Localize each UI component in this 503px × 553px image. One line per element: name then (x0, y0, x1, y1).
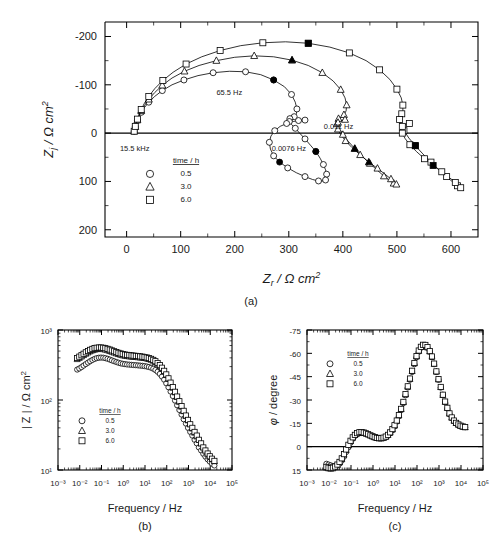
x-tick-label: 10⁻³ (50, 479, 66, 488)
data-marker-square (394, 418, 399, 423)
highlight-marker-square (430, 162, 436, 168)
x-tick-label: 300 (280, 243, 298, 255)
y-tick-label: -15 (289, 420, 301, 429)
data-marker-square (403, 391, 408, 396)
x-tick-label: 400 (334, 243, 352, 255)
data-marker-square (414, 354, 419, 359)
y-tick-label: -200 (75, 30, 97, 42)
y-tick-label: 200 (79, 224, 97, 236)
data-marker-circle (210, 70, 216, 76)
data-marker-square (160, 77, 166, 83)
x-tick-label: 10⁵ (226, 479, 238, 488)
data-marker-square (438, 384, 443, 389)
y-tick-label: -75 (289, 327, 301, 336)
x-tick-label: 10³ (183, 479, 195, 488)
data-marker-square (212, 458, 217, 463)
legend-title: time / h (173, 156, 199, 165)
y-axis-label: | Z | / Ω cm2 (19, 370, 32, 429)
y-tick-label: 0 (91, 127, 97, 139)
y-tick-label: -60 (289, 350, 301, 359)
highlight-marker-circle (271, 77, 277, 83)
x-tick-label: 10⁰ (117, 479, 129, 488)
x-tick-label: 100 (172, 243, 190, 255)
data-marker-square (260, 40, 266, 46)
y-tick-label: -100 (75, 79, 97, 91)
data-marker-square (396, 412, 401, 417)
legend-marker-circle (79, 418, 85, 424)
x-tick-label: 10⁴ (204, 479, 217, 488)
data-marker-circle (302, 117, 308, 123)
data-marker-square (463, 424, 468, 429)
data-marker-square (132, 123, 138, 129)
legend-label: 0.5 (180, 169, 192, 178)
data-marker-circle (302, 174, 308, 180)
y-axis-label: φ / degree (267, 375, 279, 426)
x-tick-label: 0 (124, 243, 130, 255)
nyquist-svg: 0100200300400500600-200-100010020015.5 k… (0, 0, 503, 320)
data-series-group (323, 342, 468, 471)
legend-marker-square (79, 438, 85, 444)
data-marker-square (421, 156, 427, 162)
legend-marker-square (146, 196, 153, 203)
data-marker-triangle (388, 175, 395, 181)
x-tick-label: 10⁻² (72, 479, 88, 488)
data-marker-square (399, 406, 404, 411)
data-marker-circle (181, 77, 187, 83)
data-marker-circle (271, 153, 277, 159)
data-marker-circle (289, 91, 295, 97)
bode-magnitude-panel: 10⁻³10⁻²10⁻¹10⁰10¹10²10³10⁴10⁵10¹10²10³t… (10, 318, 250, 553)
legend-title: time / h (99, 407, 121, 414)
x-tick-label: 10¹ (389, 479, 401, 488)
y-axis-label: Zj / Ω cm2 (40, 101, 58, 159)
data-marker-triangle (181, 68, 188, 74)
data-marker-triangle (319, 69, 326, 75)
legend-marker-circle (146, 170, 153, 177)
data-marker-circle (323, 177, 329, 183)
data-marker-square (138, 106, 144, 112)
legend-marker-triangle (327, 370, 334, 376)
data-marker-square (434, 369, 439, 374)
curve-3.0h (134, 56, 396, 185)
data-marker-square (443, 399, 448, 404)
x-tick-label: 10⁻³ (299, 479, 315, 488)
y-tick-label: 15 (292, 467, 301, 476)
data-marker-circle (320, 162, 326, 168)
x-tick-label: 10⁻¹ (94, 479, 110, 488)
data-marker-square (399, 130, 405, 136)
data-marker-circle (294, 106, 300, 112)
data-marker-square (146, 93, 152, 99)
data-marker-square (399, 123, 405, 129)
y-tick-label: -30 (289, 397, 301, 406)
data-series-group (74, 345, 217, 468)
data-marker-square (401, 399, 406, 404)
data-marker-circle (285, 165, 291, 171)
y-tick-label: 0 (297, 443, 302, 452)
legend-marker-circle (327, 361, 333, 367)
legend: time / h0.53.06.0 (79, 407, 121, 444)
legend: time / h0.53.06.0 (327, 350, 369, 387)
bode-phase-panel: 10⁻³10⁻²10⁻¹10⁰10¹10²10³10⁴10⁵-75-60-45-… (255, 318, 503, 553)
data-marker-square (217, 48, 223, 54)
data-marker-square (397, 117, 403, 123)
data-marker-square (405, 384, 410, 389)
highlight-marker-circle (277, 159, 283, 165)
data-marker-square (394, 86, 400, 92)
y-tick-label: -45 (289, 373, 301, 382)
legend-label: 6.0 (353, 380, 362, 387)
bode-phase-svg: 10⁻³10⁻²10⁻¹10⁰10¹10²10³10⁴10⁵-75-60-45-… (255, 318, 503, 553)
legend-marker-square (327, 381, 333, 387)
legend-marker-triangle (146, 182, 154, 190)
legend-label: 3.0 (105, 427, 114, 434)
data-marker-triangle (251, 52, 258, 58)
data-marker-square (427, 349, 432, 354)
data-marker-circle (302, 136, 308, 142)
y-tick-label: 10² (40, 397, 52, 406)
x-tick-label: 600 (442, 243, 460, 255)
data-marker-square (432, 361, 437, 366)
data-marker-square (400, 102, 406, 108)
data-marker-square (407, 376, 412, 381)
frequency-annotation: 65.5 Hz (216, 88, 242, 97)
panel-caption-a: (a) (244, 295, 257, 307)
x-tick-label: 10⁴ (455, 479, 468, 488)
data-marker-square (377, 67, 383, 73)
